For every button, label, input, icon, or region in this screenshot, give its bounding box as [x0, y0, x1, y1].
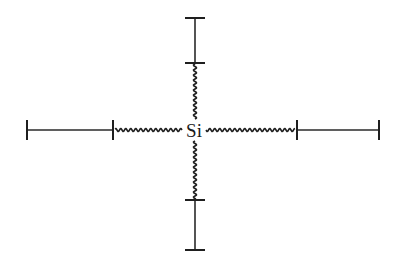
wavy-bond-left — [115, 128, 182, 131]
silicon-crosslink-diagram: Si — [0, 0, 397, 272]
branch-right — [206, 120, 379, 140]
branch-up — [185, 18, 205, 119]
branch-left — [27, 120, 182, 140]
wavy-bond-up — [193, 64, 196, 119]
silicon-atom-label: Si — [186, 120, 202, 141]
wavy-bond-right — [206, 128, 295, 131]
branch-down — [185, 141, 205, 250]
wavy-bond-down — [193, 141, 196, 199]
